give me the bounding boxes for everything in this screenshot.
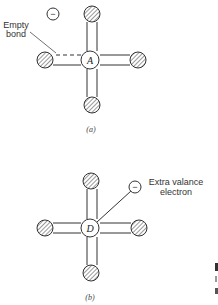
center-label-a: A xyxy=(86,55,94,66)
clipped-text-fragment xyxy=(215,288,218,294)
center-label-d: D xyxy=(85,223,94,234)
annotation-empty-line2: bond xyxy=(6,29,26,39)
annotation-extra-line1: Extra valance xyxy=(149,177,204,187)
electron-symbol-a: − xyxy=(50,9,55,19)
electron-symbol-b: − xyxy=(132,182,137,192)
caption-b: (b) xyxy=(85,293,95,302)
annotation-extra-line2: electron xyxy=(160,187,192,197)
clipped-text-fragment xyxy=(215,276,217,282)
caption-a: (a) xyxy=(86,125,96,134)
clipped-text-fragment xyxy=(215,263,218,271)
bond-diagram: A − Empty bond (a) D − Extra valance ele… xyxy=(0,0,218,305)
